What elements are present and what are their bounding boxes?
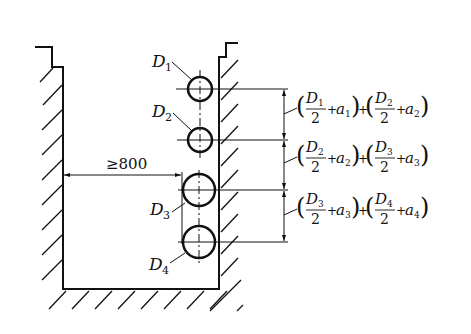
- svg-text:): ): [420, 193, 429, 221]
- svg-text:(: (: [365, 141, 374, 169]
- spacing-formula-2-3: ( D 2 2 + a 2 ) + ( D 3 2 + a 3 ): [296, 138, 429, 175]
- svg-text:a: a: [336, 100, 345, 118]
- svg-text:D: D: [305, 138, 318, 156]
- svg-text:1: 1: [318, 98, 324, 108]
- svg-text:a: a: [336, 149, 345, 167]
- svg-text:a: a: [405, 100, 414, 118]
- clearance-label: ≥800: [106, 155, 147, 173]
- label-d4: D 4: [148, 253, 185, 277]
- svg-text:D: D: [148, 254, 163, 274]
- svg-text:(: (: [365, 92, 374, 120]
- svg-text:D: D: [151, 51, 166, 71]
- svg-text:D: D: [374, 89, 387, 107]
- svg-text:4: 4: [162, 264, 169, 277]
- svg-text:2: 2: [311, 110, 320, 126]
- svg-text:D: D: [151, 101, 166, 121]
- svg-text:D: D: [305, 89, 318, 107]
- svg-text:2: 2: [380, 110, 389, 126]
- svg-text:2: 2: [380, 211, 389, 227]
- label-d3: D 3: [149, 199, 185, 222]
- svg-text:1: 1: [165, 61, 172, 74]
- svg-text:a: a: [405, 201, 414, 219]
- svg-text:2: 2: [311, 159, 320, 175]
- label-d1: D 1: [151, 51, 192, 80]
- svg-text:a: a: [405, 149, 414, 167]
- svg-text:): ): [420, 92, 429, 120]
- pipe-d4: [178, 226, 288, 258]
- spacing-formula-3-4: ( D 3 2 + a 3 ) + ( D 4 2 + a 4 ): [296, 190, 429, 227]
- svg-text:D: D: [305, 190, 318, 208]
- pipe-d3: [178, 174, 288, 206]
- svg-text:2: 2: [345, 158, 351, 168]
- svg-text:2: 2: [414, 109, 420, 119]
- pipe-d1: [176, 77, 288, 101]
- svg-text:2: 2: [311, 211, 320, 227]
- left-wall-hatching: [40, 68, 62, 280]
- svg-text:2: 2: [380, 159, 389, 175]
- clearance-dimension: ≥800: [64, 155, 182, 244]
- pipe-centerline: [199, 70, 200, 264]
- svg-text:D: D: [149, 199, 164, 219]
- svg-text:4: 4: [387, 199, 393, 209]
- svg-text:D: D: [374, 190, 387, 208]
- label-d2: D 2: [151, 101, 192, 131]
- svg-text:2: 2: [387, 98, 393, 108]
- svg-text:(: (: [296, 92, 305, 120]
- svg-text:2: 2: [165, 111, 172, 124]
- svg-text:): ): [420, 141, 429, 169]
- svg-text:(: (: [296, 193, 305, 221]
- svg-text:D: D: [374, 138, 387, 156]
- spacing-formula-1-2: ( D 1 2 + a 1 ) + ( D 2 2 + a 2 ): [296, 89, 429, 126]
- svg-text:2: 2: [318, 147, 324, 157]
- svg-text:(: (: [365, 193, 374, 221]
- svg-text:(: (: [296, 141, 305, 169]
- svg-text:3: 3: [163, 209, 170, 222]
- bottom-hatching: [49, 291, 227, 309]
- svg-text:a: a: [336, 201, 345, 219]
- svg-text:1: 1: [345, 109, 351, 119]
- svg-text:3: 3: [387, 147, 393, 157]
- trench-pipe-diagram: D 1 D 2 D 3 D 4 ≥800 ( D 1 2 + a: [0, 0, 471, 334]
- svg-text:3: 3: [318, 199, 324, 209]
